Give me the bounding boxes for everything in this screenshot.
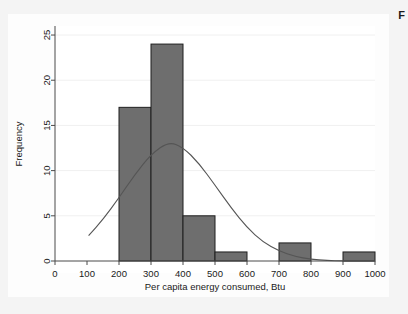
x-tick-label: 600: [239, 268, 255, 279]
x-tick-label: 800: [303, 268, 319, 279]
x-tick-label: 100: [79, 268, 95, 279]
x-tick-label: 500: [207, 268, 223, 279]
x-tick-label: 700: [271, 268, 287, 279]
histogram-bar: [119, 107, 151, 261]
y-tick-label: 20: [41, 75, 52, 86]
figure-root: 0510152025 01002003004005006007008009001…: [0, 0, 408, 314]
x-axis-title: Per capita energy consumed, Btu: [145, 281, 285, 292]
figure-caption-fragment: F: [398, 9, 405, 21]
y-axis-title: Frequency: [13, 121, 24, 166]
histogram-bar: [215, 252, 247, 261]
chart-canvas: 0510152025 01002003004005006007008009001…: [8, 14, 389, 297]
y-tick-label: 15: [41, 120, 52, 131]
x-tick-label: 0: [52, 268, 57, 279]
histogram-bar: [151, 44, 183, 261]
y-tick-label: 0: [41, 258, 52, 263]
y-tick-label: 5: [41, 213, 52, 218]
x-tick-label: 300: [143, 268, 159, 279]
x-tick-label: 200: [111, 268, 127, 279]
x-tick-label: 1000: [364, 268, 385, 279]
histogram-chart: 0510152025 01002003004005006007008009001…: [8, 14, 389, 297]
x-tick-label: 400: [175, 268, 191, 279]
x-tick-label: 900: [335, 268, 351, 279]
histogram-bar: [183, 216, 215, 261]
histogram-bar: [343, 252, 375, 261]
y-axis-ticks: 0510152025: [41, 30, 55, 264]
y-tick-label: 10: [41, 165, 52, 176]
y-tick-label: 25: [41, 30, 52, 41]
